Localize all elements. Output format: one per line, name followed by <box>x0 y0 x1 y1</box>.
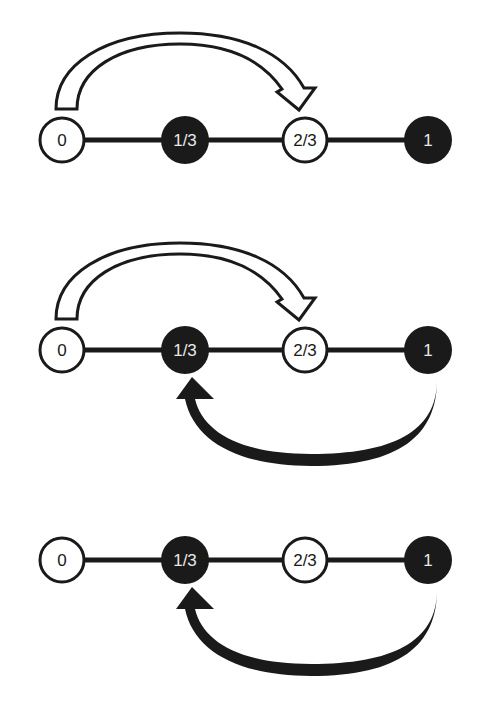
arrow-1-to-1-3-icon <box>176 587 437 676</box>
node-0: 0 <box>40 118 84 162</box>
node-0: 0 <box>40 538 84 582</box>
node-label: 0 <box>57 131 66 150</box>
node-label: 2/3 <box>293 131 317 150</box>
node-label: 1 <box>423 551 432 570</box>
node-label: 2/3 <box>293 551 317 570</box>
node-label: 1/3 <box>173 341 197 360</box>
node-label: 2/3 <box>293 341 317 360</box>
node-1-3: 1/3 <box>161 326 209 374</box>
node-label: 0 <box>57 551 66 570</box>
node-1-3: 1/3 <box>161 536 209 584</box>
node-label: 1 <box>423 341 432 360</box>
node-1: 1 <box>404 116 452 164</box>
node-1: 1 <box>404 326 452 374</box>
node-0: 0 <box>40 328 84 372</box>
node-label: 0 <box>57 341 66 360</box>
node-2-3: 2/3 <box>283 118 327 162</box>
panel-1: 0 1/3 2/3 1 <box>40 27 452 164</box>
node-2-3: 2/3 <box>283 328 327 372</box>
arrow-0-to-2-3-icon <box>50 27 316 110</box>
node-2-3: 2/3 <box>283 538 327 582</box>
diagram-canvas: 0 1/3 2/3 1 0 1/3 2/3 <box>0 0 479 709</box>
arrow-1-to-1-3-icon <box>176 377 437 466</box>
panel-2: 0 1/3 2/3 1 <box>40 237 452 466</box>
node-label: 1 <box>423 131 432 150</box>
panel-3: 0 1/3 2/3 1 <box>40 536 452 676</box>
node-label: 1/3 <box>173 131 197 150</box>
node-1: 1 <box>404 536 452 584</box>
node-label: 1/3 <box>173 551 197 570</box>
node-1-3: 1/3 <box>161 116 209 164</box>
arrow-0-to-2-3-icon <box>50 237 316 320</box>
